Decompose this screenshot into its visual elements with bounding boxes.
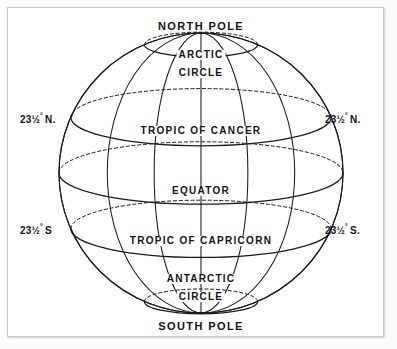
degree-fraction: ½ xyxy=(337,115,346,125)
label-degree-cancer-left: 23½°N. xyxy=(20,115,55,125)
degree-hemisphere: S xyxy=(45,225,52,236)
label-degree-cancer-right: 23½°N. xyxy=(325,115,360,125)
label-degree-capricorn-right: 23½°S. xyxy=(325,226,360,236)
label-south-pole: SOUTH POLE xyxy=(158,321,244,332)
label-antarctic-circle-line1: ANTARCTIC xyxy=(165,274,237,284)
label-degree-capricorn-left: 23½°S xyxy=(20,226,52,236)
degree-fraction: ½ xyxy=(337,226,346,236)
degree-fraction: ½ xyxy=(32,226,41,236)
degree-hemisphere: S. xyxy=(350,225,360,236)
degree-hemisphere: N. xyxy=(45,114,55,125)
degree-number: 23 xyxy=(20,225,32,236)
label-equator: EQUATOR xyxy=(170,186,232,196)
label-arctic-circle-line2: CIRCLE xyxy=(177,68,225,78)
label-arctic-circle-line1: ARCTIC xyxy=(177,50,226,60)
degree-hemisphere: N. xyxy=(350,114,360,125)
label-north-pole: NORTH POLE xyxy=(158,21,244,32)
degree-number: 23 xyxy=(325,225,337,236)
figure-frame: NORTH POLE SOUTH POLE ARCTIC CIRCLE TROP… xyxy=(7,7,384,337)
label-tropic-of-cancer: TROPIC OF CANCER xyxy=(139,126,264,136)
label-antarctic-circle-line2: CIRCLE xyxy=(177,292,225,302)
label-tropic-of-capricorn: TROPIC OF CAPRICORN xyxy=(128,236,274,246)
degree-number: 23 xyxy=(325,114,337,125)
degree-number: 23 xyxy=(20,114,32,125)
degree-fraction: ½ xyxy=(32,115,41,125)
figure-page: NORTH POLE SOUTH POLE ARCTIC CIRCLE TROP… xyxy=(0,0,397,349)
